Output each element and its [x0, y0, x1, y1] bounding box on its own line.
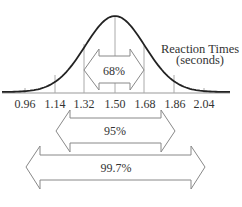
interval-label-68: 68%: [103, 64, 125, 78]
interval-arrow-95: 95%: [56, 110, 175, 152]
interval-arrow-68: 68%: [84, 49, 144, 90]
tick-label: 1.32: [74, 97, 95, 111]
interval-arrow-99-7: 99.7%: [26, 146, 205, 189]
tick-label: 1.14: [45, 97, 66, 111]
tick-label: 1.50: [105, 97, 126, 111]
tick-label: 1.86: [165, 97, 186, 111]
interval-label-95: 95%: [104, 124, 126, 138]
tick-label: 0.96: [15, 97, 36, 111]
tick-label: 2.04: [194, 97, 215, 111]
x-tick-labels: 0.96 1.14 1.32 1.50 1.68 1.86 2.04: [15, 97, 215, 111]
interval-label-99-7: 99.7%: [101, 161, 132, 175]
chart-title-line2: (seconds): [176, 53, 224, 67]
normal-distribution-chart: 0.96 1.14 1.32 1.50 1.68 1.86 2.04 React…: [0, 0, 242, 207]
tick-label: 1.68: [135, 97, 156, 111]
